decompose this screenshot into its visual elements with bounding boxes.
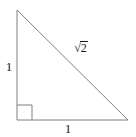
hypotenuse-line (17, 10, 128, 120)
radicand-value: 2 (80, 41, 88, 54)
vertical-leg-label: 1 (2, 60, 16, 73)
triangle-drawing (0, 0, 136, 137)
hypotenuse-label: √2 (66, 41, 96, 54)
horizontal-leg-label: 1 (54, 122, 82, 135)
right-triangle-figure: 1 1 √2 (0, 0, 136, 137)
radical-group: √2 (74, 41, 88, 54)
right-angle-marker-icon (17, 105, 32, 120)
